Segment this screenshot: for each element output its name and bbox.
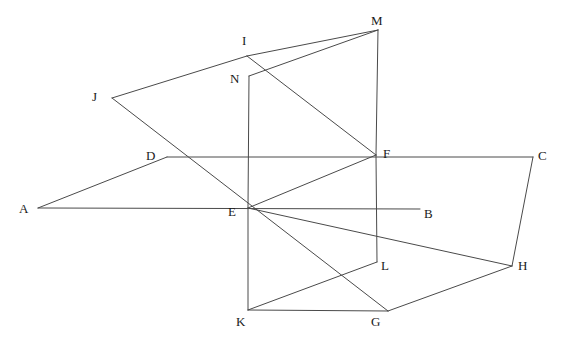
vertex-label-G: G xyxy=(371,315,380,328)
vertex-label-H: H xyxy=(518,259,527,272)
vertex-label-I: I xyxy=(242,34,246,47)
segment-I-M xyxy=(247,30,378,56)
segment-A-D xyxy=(38,157,167,208)
vertex-label-A: A xyxy=(19,202,28,215)
segment-C-H xyxy=(512,157,533,266)
segment-I-F xyxy=(247,56,376,155)
vertex-label-N: N xyxy=(230,72,239,85)
segment-J-G xyxy=(112,98,388,311)
segment-F-L xyxy=(376,155,377,262)
segment-layer xyxy=(38,30,533,311)
segment-J-I xyxy=(112,56,247,98)
vertex-label-B: B xyxy=(424,207,433,220)
segment-E-F xyxy=(248,155,376,208)
segment-E-H xyxy=(248,208,512,266)
segment-M-F xyxy=(376,30,378,155)
segment-G-H xyxy=(388,266,512,311)
figure-line-canvas xyxy=(0,0,569,347)
vertex-label-J: J xyxy=(92,90,97,103)
geometry-figure: ABCDEFGHIJKLMN xyxy=(0,0,569,347)
vertex-label-L: L xyxy=(381,259,389,272)
vertex-label-M: M xyxy=(371,14,383,27)
segment-K-G xyxy=(248,310,388,311)
vertex-label-E: E xyxy=(228,205,236,218)
vertex-label-F: F xyxy=(383,147,390,160)
vertex-label-C: C xyxy=(538,149,547,162)
segment-N-E xyxy=(248,76,249,208)
segment-N-M xyxy=(249,30,378,76)
vertex-label-D: D xyxy=(146,149,155,162)
segment-L-K xyxy=(248,262,377,310)
vertex-label-K: K xyxy=(236,315,245,328)
